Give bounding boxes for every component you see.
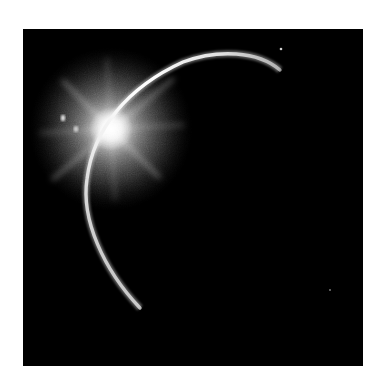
page bbox=[0, 0, 380, 391]
lens-flare-spot bbox=[61, 115, 65, 121]
lens-flare-spot bbox=[74, 126, 79, 132]
eclipse-illustration bbox=[23, 29, 363, 366]
eclipse-photo bbox=[23, 29, 363, 366]
star bbox=[329, 289, 331, 291]
star bbox=[280, 48, 283, 51]
